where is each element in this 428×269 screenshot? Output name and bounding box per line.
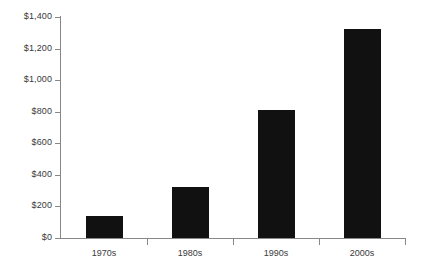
x-axis-category-label: 2000s — [319, 248, 405, 258]
x-axis-tick — [147, 239, 148, 245]
bar-chart: $0$200$400$600$800$1,000$1,200$1,400 197… — [0, 0, 428, 269]
y-axis-tick-label: $600 — [4, 138, 52, 147]
y-axis-tick-label: $800 — [4, 107, 52, 116]
y-axis-tick-label: $0 — [4, 233, 52, 242]
x-axis-tick — [405, 239, 406, 245]
x-axis-tick — [233, 239, 234, 245]
y-axis-tick-label: $1,200 — [4, 44, 52, 53]
y-axis-tick-label: $1,000 — [4, 75, 52, 84]
x-axis-category-label: 1990s — [233, 248, 319, 258]
y-axis-tick-label: $400 — [4, 170, 52, 179]
x-axis-category-label: 1970s — [61, 248, 147, 258]
bar-1990s — [258, 110, 295, 238]
y-axis-tick-label: $200 — [4, 201, 52, 210]
y-axis-tick-label: $1,400 — [4, 12, 52, 21]
y-axis-tick — [55, 238, 61, 239]
bar-2000s — [344, 29, 381, 238]
plot-area — [61, 17, 405, 238]
bar-1970s — [86, 216, 123, 238]
x-axis-category-label: 1980s — [147, 248, 233, 258]
x-axis-tick — [319, 239, 320, 245]
bar-1980s — [172, 187, 209, 238]
